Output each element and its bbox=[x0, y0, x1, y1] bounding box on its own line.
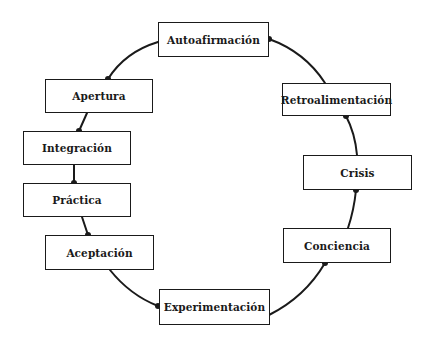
node-retroalimentacion: Retroalimentación bbox=[282, 83, 391, 116]
node-label: Práctica bbox=[52, 194, 101, 206]
connector-apertura-autoafirmacion bbox=[108, 42, 158, 79]
connector-crisis-conciencia bbox=[348, 190, 356, 228]
node-apertura: Apertura bbox=[45, 79, 153, 113]
connector-autoafirmacion-retroalimentacion bbox=[269, 39, 325, 83]
cycle-diagram: Autoafirmación Retroalimentación Crisis … bbox=[0, 0, 435, 343]
node-practica: Práctica bbox=[23, 183, 131, 217]
node-label: Autoafirmación bbox=[167, 34, 260, 46]
node-label: Integración bbox=[42, 142, 112, 154]
node-experimentacion: Experimentación bbox=[159, 289, 270, 325]
connector-retroalimentacion-crisis bbox=[346, 116, 357, 155]
node-label: Conciencia bbox=[304, 240, 370, 252]
node-aceptacion: Aceptación bbox=[45, 235, 154, 270]
connector-conciencia-experimentacion bbox=[269, 263, 325, 315]
node-label: Aceptación bbox=[66, 247, 132, 259]
connector-aceptacion-experimentacion bbox=[110, 270, 158, 306]
node-label: Experimentación bbox=[164, 301, 265, 313]
node-label: Crisis bbox=[340, 167, 374, 179]
node-label: Apertura bbox=[72, 90, 125, 102]
node-autoafirmacion: Autoafirmación bbox=[158, 22, 269, 57]
node-crisis: Crisis bbox=[303, 155, 412, 190]
node-integracion: Integración bbox=[23, 131, 131, 165]
node-conciencia: Conciencia bbox=[283, 228, 391, 263]
node-label: Retroalimentación bbox=[281, 94, 392, 106]
